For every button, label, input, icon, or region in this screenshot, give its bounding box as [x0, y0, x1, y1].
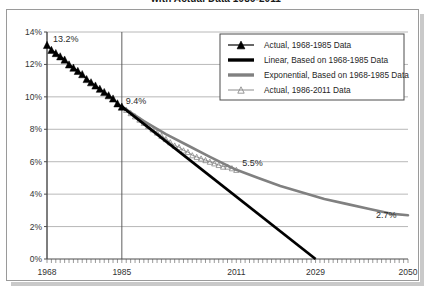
data-point-label: 2.7% [376, 210, 397, 220]
vertical-reference-lines [47, 32, 122, 259]
exponential-curve [122, 107, 408, 216]
y-tick-label: 4% [30, 189, 43, 199]
data-point-label: 5.5% [242, 158, 263, 168]
legend-item-label: Exponential, Based on 1968-1985 Data [264, 70, 409, 80]
frame-shadow-bottom [11, 282, 424, 286]
legend-item-label: Linear, Based on 1968-1985 Data [264, 55, 388, 65]
x-tick-label: 2029 [306, 267, 325, 277]
x-tick-label: 2011 [227, 267, 246, 277]
series-exponential-line [122, 107, 408, 216]
x-axis-tick-labels: 19681985201120292050 [38, 267, 418, 277]
y-tick-label: 12% [25, 59, 42, 69]
chart-legend: Actual, 1968-1985 DataLinear, Based on 1… [220, 34, 409, 100]
x-tick-label: 1985 [112, 267, 131, 277]
data-point-label: 13.2% [53, 34, 79, 44]
y-tick-label: 8% [30, 124, 43, 134]
y-tick-label: 6% [30, 157, 43, 167]
frame-shadow-right [420, 14, 424, 285]
legend-item-label: Actual, 1986-2011 Data [264, 85, 351, 95]
x-tick-label: 2050 [399, 267, 418, 277]
chart-title-clipped: with Actual Data 1986-2011 [0, 0, 432, 9]
y-tick-label: 10% [25, 92, 42, 102]
x-tick-label: 1968 [38, 267, 57, 277]
page-title: with Actual Data 1986-2011 [151, 0, 281, 4]
y-axis-tick-labels: 0%2%4%6%8%10%12%14% [25, 27, 42, 264]
chart-canvas: 0%2%4%6%8%10%12%14% 19681985201120292050… [7, 10, 420, 282]
y-tick-label: 0% [30, 254, 43, 264]
chart-frame: 0%2%4%6%8%10%12%14% 19681985201120292050… [6, 9, 419, 281]
y-tick-label: 14% [25, 27, 42, 37]
series-actual-1968-1985 [43, 41, 125, 110]
legend-item-label: Actual, 1968-1985 Data [264, 40, 352, 50]
data-point-label: 9.4% [126, 96, 147, 106]
plot-area: 0%2%4%6%8%10%12%14% 19681985201120292050… [7, 10, 420, 282]
y-tick-label: 2% [30, 222, 43, 232]
filled-triangle-marker [43, 41, 50, 48]
x-minor-ticks [47, 259, 408, 263]
